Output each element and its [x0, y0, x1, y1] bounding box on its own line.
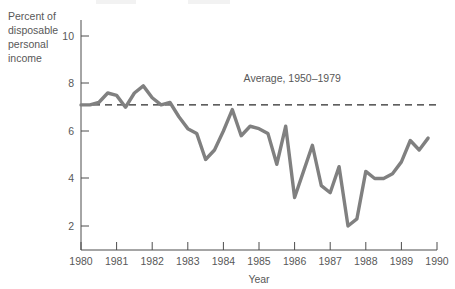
x-tick-label-1984: 1984: [212, 255, 236, 267]
x-tick-label-1983: 1983: [176, 255, 200, 267]
y-axis-label: Percent of disposable personal income: [8, 10, 58, 64]
y-tick-label-4: 4: [68, 172, 74, 184]
x-tick-label-1986: 1986: [283, 255, 307, 267]
x-tick-label-1989: 1989: [390, 255, 414, 267]
y-axis-ticks: [81, 36, 89, 226]
y-tick-label-2: 2: [68, 220, 74, 232]
y-axis-label-line-2: disposable: [8, 24, 58, 36]
y-axis-label-line-3: personal: [8, 38, 48, 50]
x-tick-label-1990: 1990: [425, 255, 449, 267]
x-axis-title: Year: [248, 273, 270, 285]
line-chart-canvas: Percent of disposable personal income 10…: [0, 0, 455, 289]
y-axis-label-line-4: income: [8, 52, 42, 64]
y-tick-label-6: 6: [68, 125, 74, 137]
x-axis-tick-labels: 1980 1981 1982 1983 1984 1985 1986 1987 …: [69, 255, 449, 267]
x-tick-label-1981: 1981: [105, 255, 129, 267]
x-axis-ticks: [81, 242, 437, 250]
y-axis-tick-labels: 10 8 6 4 2: [62, 30, 74, 232]
x-tick-label-1987: 1987: [319, 255, 343, 267]
chart-figure: Percent of disposable personal income 10…: [0, 0, 455, 289]
x-tick-label-1988: 1988: [354, 255, 378, 267]
average-annotation-label: Average, 1950–1979: [244, 72, 341, 84]
y-tick-label-10: 10: [62, 30, 74, 42]
x-tick-label-1985: 1985: [247, 255, 271, 267]
y-tick-label-8: 8: [68, 77, 74, 89]
x-tick-label-1980: 1980: [69, 255, 93, 267]
x-tick-label-1982: 1982: [141, 255, 165, 267]
y-axis-label-line-1: Percent of: [8, 10, 56, 22]
saving-rate-line-series: [81, 86, 428, 226]
